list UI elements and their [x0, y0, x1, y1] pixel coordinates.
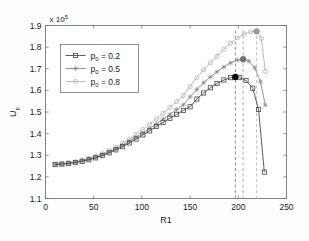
peak-marker: [254, 28, 260, 34]
y-axis-multiplier: x 105: [50, 14, 69, 24]
y-axis-label: Up: [8, 106, 20, 117]
y-tick-label: 1.9: [30, 21, 42, 31]
y-tick-label: 1.6: [30, 85, 42, 95]
chart-canvas: 0501001502002501.11.21.31.41.51.61.71.81…: [0, 0, 309, 241]
y-tick-label: 1.8: [30, 42, 42, 52]
figure-container: 0501001502002501.11.21.31.41.51.61.71.81…: [0, 0, 309, 241]
x-tick-label: 50: [89, 202, 99, 212]
y-tick-label: 1.7: [30, 64, 42, 74]
y-tick-label: 1.3: [30, 150, 42, 160]
x-tick-label: 0: [43, 202, 48, 212]
legend-label: p0 = 0.5: [91, 64, 121, 76]
peak-marker: [240, 56, 246, 62]
legend-label: p0 = 0.8: [91, 77, 121, 89]
legend-label: p0 = 0.2: [91, 51, 121, 63]
y-tick-label: 1.2: [30, 172, 42, 182]
y-tick-label: 1.1: [30, 194, 42, 204]
x-tick-label: 200: [231, 202, 245, 212]
y-tick-label: 1.4: [30, 129, 42, 139]
x-tick-label: 100: [135, 202, 149, 212]
y-tick-label: 1.5: [30, 107, 42, 117]
peak-marker: [233, 74, 239, 80]
x-tick-label: 250: [279, 202, 293, 212]
x-axis-label: R1: [160, 215, 172, 225]
x-tick-label: 150: [183, 202, 197, 212]
